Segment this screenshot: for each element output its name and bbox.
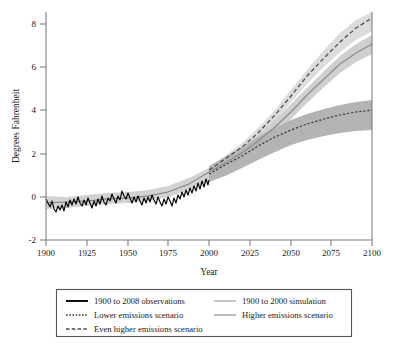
y-label-8: 8 [32, 19, 37, 29]
x-label-1950: 1950 [119, 248, 138, 258]
x-label-1925: 1925 [78, 248, 97, 258]
climate-projection-figure: 8 6 4 2 0 -2 1900 1925 1950 1975 2000 20… [0, 0, 394, 354]
y-label-4: 4 [32, 105, 37, 115]
x-label-1975: 1975 [159, 248, 178, 258]
y-label-0: 0 [32, 192, 37, 202]
x-label-2100: 2100 [363, 248, 382, 258]
chart-svg: 8 6 4 2 0 -2 1900 1925 1950 1975 2000 20… [0, 0, 394, 354]
legend-label-lower-emissions: Lower emissions scenario [94, 310, 183, 320]
x-label-1900: 1900 [37, 248, 56, 258]
y-label-2: 2 [32, 149, 37, 159]
y-axis-title: Degrees Fahrenheit [11, 89, 21, 163]
legend-label-observations: 1900 to 2008 observations [94, 296, 186, 306]
x-label-2000: 2000 [200, 248, 219, 258]
legend-label-higher-emissions: Higher emissions scenario [242, 310, 333, 320]
legend-label-even-higher-emissions: Even higher emissions scenario [94, 324, 203, 334]
y-label-6: 6 [32, 62, 37, 72]
y-label-neg2: -2 [29, 235, 37, 245]
x-label-2075: 2075 [322, 248, 341, 258]
x-tick-labels: 1900 1925 1950 1975 2000 2025 2050 2075 … [37, 248, 382, 258]
legend-label-simulation: 1900 to 2000 simulation [242, 296, 326, 306]
x-label-2050: 2050 [282, 248, 301, 258]
x-label-2025: 2025 [241, 248, 260, 258]
x-axis-title: Year [200, 267, 218, 277]
